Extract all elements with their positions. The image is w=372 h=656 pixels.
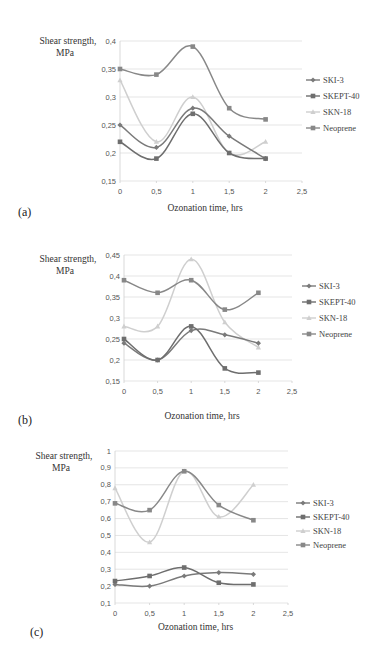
- legend-item: SKI-3: [296, 498, 334, 508]
- legend: SKI-3SKEPT-40SKN-18Neoprene: [302, 281, 356, 339]
- data-point: [155, 358, 160, 363]
- legend-label: SKN-18: [323, 107, 351, 117]
- x-tick-label: 2: [264, 187, 268, 196]
- data-point: [147, 508, 152, 513]
- data-point: [117, 77, 122, 82]
- legend-marker: [310, 77, 315, 82]
- data-point: [223, 307, 228, 312]
- series-line: [115, 471, 253, 542]
- series-neoprene: [122, 278, 261, 312]
- data-point: [155, 291, 160, 296]
- data-point: [223, 366, 228, 371]
- data-point: [113, 501, 118, 506]
- chart-panel-a: 0,150,20,250,30,350,400,511,522,5Shear s…: [18, 36, 360, 219]
- y-tick-label: 0,1: [101, 599, 111, 608]
- y-tick-label: 0,2: [110, 356, 120, 365]
- panel-label: (c): [30, 625, 43, 639]
- data-point: [122, 337, 127, 342]
- data-point: [118, 140, 123, 145]
- data-point: [147, 584, 152, 589]
- x-tick-label: 2,5: [287, 387, 297, 396]
- x-tick-label: 0,5: [151, 187, 161, 196]
- chart-panel-c: 0,10,20,30,40,50,60,70,80,9100,511,522,5…: [30, 447, 350, 639]
- legend-marker: [307, 300, 312, 305]
- series-skn-18: [117, 77, 268, 155]
- y-axis-title-line2: MPa: [52, 463, 71, 473]
- legend-item: Neoprene: [306, 123, 356, 133]
- figure: 0,150,20,250,30,350,400,511,522,5Shear s…: [0, 0, 372, 656]
- y-tick-label: 0,2: [101, 582, 111, 591]
- series-line: [115, 471, 253, 520]
- data-point: [189, 328, 194, 333]
- data-point: [263, 156, 268, 161]
- legend-item: Neoprene: [296, 540, 346, 550]
- x-tick-label: 1: [191, 187, 195, 196]
- data-point: [147, 574, 152, 579]
- data-point: [191, 112, 196, 117]
- data-point: [251, 582, 256, 587]
- y-tick-label: 0,15: [101, 177, 116, 186]
- x-tick-label: 1,5: [224, 187, 234, 196]
- legend-label: SKEPT-40: [319, 297, 356, 307]
- y-tick-label: 0,35: [105, 293, 120, 302]
- y-tick-label: 0,4: [101, 548, 111, 557]
- y-tick-label: 0,7: [101, 497, 111, 506]
- series-ski-3: [121, 328, 261, 363]
- y-tick-label: 0,4: [110, 272, 120, 281]
- legend-label: SKI-3: [323, 75, 344, 85]
- y-tick-label: 0,45: [105, 251, 120, 260]
- legend: SKI-3SKEPT-40SKN-18Neoprene: [296, 498, 350, 550]
- legend-label: SKN-18: [313, 526, 341, 536]
- legend-item: SKEPT-40: [302, 297, 356, 307]
- data-point: [251, 572, 256, 577]
- legend-marker: [306, 283, 311, 288]
- x-axis-title: Ozonation time, hrs: [167, 203, 242, 213]
- legend-label: Neoprene: [323, 123, 356, 133]
- y-axis-title-line2: MPa: [56, 266, 75, 276]
- legend-marker: [301, 543, 306, 548]
- data-point: [256, 341, 261, 346]
- legend-marker: [311, 126, 316, 131]
- data-point: [227, 151, 232, 156]
- x-tick-label: 2,5: [297, 187, 307, 196]
- legend-label: SKI-3: [313, 498, 334, 508]
- legend-label: Neoprene: [313, 540, 346, 550]
- legend-item: SKI-3: [302, 281, 340, 291]
- y-axis-title-line1: Shear strength,: [40, 254, 97, 264]
- legend-item: SKI-3: [306, 75, 344, 85]
- series-neoprene: [113, 469, 256, 523]
- y-tick-label: 0,3: [101, 565, 111, 574]
- legend-item: SKN-18: [296, 526, 341, 536]
- series-line: [124, 326, 258, 373]
- x-tick-label: 0: [118, 187, 122, 196]
- legend-label: SKI-3: [319, 281, 340, 291]
- chart-panel-b: 0,150,20,250,30,350,40,4500,511,522,5She…: [18, 251, 356, 427]
- y-tick-label: 0,25: [101, 121, 116, 130]
- series-skn-18: [112, 468, 256, 544]
- data-point: [216, 570, 221, 575]
- x-tick-label: 2: [251, 609, 255, 618]
- y-axis-title-line2: MPa: [56, 48, 75, 58]
- data-point: [189, 278, 194, 283]
- x-tick-label: 2: [256, 387, 260, 396]
- legend-item: SKN-18: [302, 313, 347, 323]
- y-tick-label: 0,25: [105, 335, 120, 344]
- data-point: [182, 565, 187, 570]
- x-axis-title: Ozonation time, hrs: [158, 622, 233, 632]
- data-point: [182, 469, 187, 474]
- x-tick-label: 0,5: [152, 387, 162, 396]
- data-point: [122, 278, 127, 283]
- series-skn-18: [121, 256, 261, 349]
- y-tick-label: 0,15: [105, 377, 120, 386]
- data-point: [222, 332, 227, 337]
- data-point: [217, 503, 222, 508]
- panel-label: (b): [18, 413, 32, 427]
- series-line: [124, 259, 258, 347]
- y-tick-label: 0,5: [101, 531, 111, 540]
- y-axis-title-line1: Shear strength,: [40, 36, 97, 46]
- y-tick-label: 0,3: [110, 314, 120, 323]
- data-point: [112, 485, 117, 490]
- legend-item: SKEPT-40: [296, 512, 350, 522]
- y-tick-label: 0,8: [101, 480, 111, 489]
- y-tick-label: 1: [107, 447, 111, 456]
